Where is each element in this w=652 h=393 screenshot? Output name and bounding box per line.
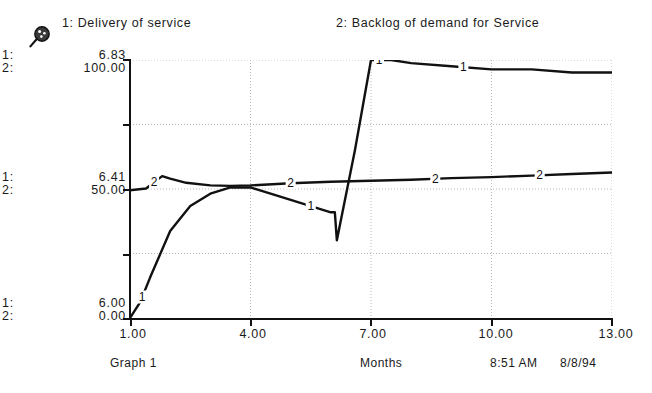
- y-axis-tick-max: [123, 59, 131, 61]
- chart-canvas: 11112222: [130, 60, 612, 318]
- y-axis-labels-top: 1: 6.83 2: 100.00: [2, 49, 126, 75]
- series-value-2-max: 100.00: [84, 62, 126, 75]
- legend-entry-backlog-of-demand[interactable]: 2: Backlog of demand for Service: [336, 16, 539, 30]
- x-axis-tick-1: [130, 320, 132, 326]
- series-id-2: 2:: [2, 184, 18, 197]
- legend-entry-delivery-of-service[interactable]: 1: Delivery of service: [62, 16, 191, 30]
- y-axis-tick-lower: [123, 254, 131, 256]
- series-marker-label-1: 1: [460, 60, 467, 74]
- x-axis-tick-13: [611, 320, 613, 326]
- series-marker-label-2: 2: [287, 176, 294, 190]
- y-axis-label-row-series2-mid: 2: 50.00: [2, 184, 126, 197]
- y-axis-tick-mid: [123, 189, 131, 191]
- status-graph-name[interactable]: Graph 1: [110, 356, 157, 370]
- x-tick-label-7: 7.00: [359, 327, 386, 341]
- x-tick-label-4: 4.00: [239, 327, 266, 341]
- series-value-2-min: 0.00: [99, 310, 126, 323]
- x-axis-tick-7: [370, 320, 372, 326]
- y-axis-tick-upper: [123, 124, 131, 126]
- series-marker-label-2: 2: [151, 175, 158, 189]
- status-bar: Graph 1 Months 8:51 AM 8/8/94: [0, 352, 652, 382]
- graph-window: 1: Delivery of service 2: Backlog of dem…: [0, 0, 652, 393]
- x-tick-label-10: 10.00: [479, 327, 514, 341]
- x-tick-label-1: 1.00: [119, 327, 146, 341]
- series-marker-label-2: 2: [536, 168, 543, 182]
- x-axis-tick-10: [491, 320, 493, 326]
- series-marker-label-1: 1: [376, 60, 383, 67]
- magnifier-icon[interactable]: [27, 24, 53, 50]
- y-axis-labels-bottom: 1: 6.00 2: 0.00: [2, 297, 126, 323]
- y-axis-label-row-series2-max: 2: 100.00: [2, 62, 126, 75]
- legend-bar: 1: Delivery of service 2: Backlog of dem…: [0, 12, 652, 38]
- series-value-2-mid: 50.00: [91, 184, 126, 197]
- status-x-axis-name: Months: [360, 356, 402, 370]
- status-date: 8/8/94: [560, 356, 596, 370]
- y-axis-labels-middle: 1: 6.41 2: 50.00: [2, 171, 126, 197]
- series-marker-label-1: 1: [139, 290, 146, 304]
- x-tick-label-13: 13.00: [599, 327, 634, 341]
- gridlines: [130, 60, 612, 318]
- series-id-2: 2:: [2, 62, 18, 75]
- status-time: 8:51 AM: [490, 356, 538, 370]
- series-id-2: 2:: [2, 310, 18, 323]
- x-axis-tick-4: [250, 320, 252, 326]
- series-marker-label-1: 1: [307, 199, 314, 213]
- y-axis-label-row-series2-min: 2: 0.00: [2, 310, 126, 323]
- plot-area[interactable]: 11112222: [130, 60, 612, 318]
- series-marker-label-2: 2: [432, 172, 439, 186]
